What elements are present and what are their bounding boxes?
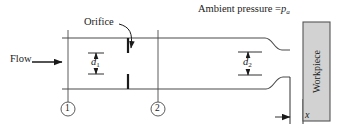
d1-label: d1: [91, 57, 100, 69]
channel-bottom-wall: [62, 77, 290, 89]
d1-subscript: 1: [96, 61, 100, 69]
diagram-canvas: [0, 0, 347, 132]
station-section-lines: [68, 30, 158, 103]
ambient-pressure-text: Ambient pressure =: [198, 3, 281, 14]
d2-label: d2: [243, 57, 252, 69]
channel-top-wall: [62, 38, 290, 50]
station-1-label: 1: [65, 104, 70, 114]
d2-subscript: 2: [248, 61, 252, 69]
station-callout-circles: [61, 102, 165, 116]
ambient-pressure-label: Ambient pressure =pa: [198, 4, 290, 16]
orifice-leader-arrow: [119, 24, 132, 48]
orifice-label: Orifice: [84, 17, 114, 28]
nozzle-orifice-diagram: Ambient pressure =pa Orifice Flow d1 d2 …: [0, 0, 347, 132]
workpiece-label-wrap: Workpiece: [303, 22, 330, 121]
ambient-pressure-subscript: a: [286, 8, 290, 16]
flow-label: Flow: [10, 54, 32, 65]
station-2-label: 2: [155, 104, 160, 114]
workpiece-label: Workpiece: [311, 50, 322, 93]
